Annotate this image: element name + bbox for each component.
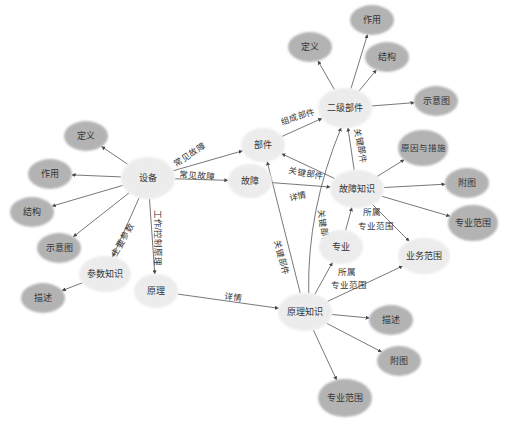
edge-label: 所属 [338,267,356,277]
edge-erji-jiegou_t [359,70,376,91]
edge-guzhangzs-erji [348,128,354,170]
node-label: 定义 [301,41,319,52]
node-label: 故障 [241,175,259,186]
node-shiyitu_t[interactable]: 示意图 [414,86,458,116]
node-label: 作用 [363,14,381,25]
node-label: 专业范围 [455,217,491,228]
node-zuoyong_t[interactable]: 作用 [350,5,394,35]
node-bujian[interactable]: 部件 [241,128,285,162]
edge-label: 详情 [288,190,308,203]
edge-yuanlizs-zhuanye_b [313,330,336,380]
node-label: 结构 [23,206,41,217]
edge-erji-zuoyong_t [351,35,368,89]
node-yuanli[interactable]: 原理 [134,274,178,308]
edge-canshu-miaoshu_l [62,283,82,291]
node-jiegou_t[interactable]: 结构 [365,42,409,72]
node-label: 作用 [41,168,59,179]
node-shiyitu_l[interactable]: 示意图 [37,233,81,263]
node-yuanyin[interactable]: 原因与措施 [398,130,448,166]
node-zhuanye[interactable]: 专业 [319,230,363,264]
edge-zhuanye-guzhangzs [346,208,352,231]
edge-guzhangzs-yuanyin [377,160,404,177]
node-label: 示意图 [46,242,73,253]
edge-erji-dingyi_t [318,61,334,90]
edge-label: 关键部件 [352,127,368,164]
edge-label: 工作/控制原理 [153,210,163,267]
node-canshu[interactable]: 参数知识 [79,256,131,292]
node-label: 附图 [390,355,408,366]
edge-guzhangzs-futu_r [384,184,445,187]
edge-label: 关键部件 [287,165,324,181]
edge-label: 常见故障 [172,141,208,169]
edge-shebei-zuoyong_l [72,175,121,177]
node-label: 原理知识 [287,306,323,317]
node-label: 设备 [139,172,157,183]
node-shebei[interactable]: 设备 [121,157,175,199]
node-dingyi_l[interactable]: 定义 [64,121,108,151]
node-label: 专业范围 [327,392,363,403]
edge-shebei-shiyitu_l [73,193,129,237]
nodes-layer: 设备定义作用结构示意图参数知识描述原理部件故障二级部件定义作用结构示意图原因与措… [10,5,498,417]
edge-label: 专业范围 [358,221,394,231]
node-zhuanye_b[interactable]: 专业范围 [318,379,372,417]
node-label: 参数知识 [87,268,123,279]
node-futu_b[interactable]: 附图 [377,346,421,376]
node-miaoshu_b[interactable]: 描述 [369,305,413,335]
edge-shebei-jiegou_l [52,185,123,206]
node-yewu[interactable]: 业务范围 [398,238,450,274]
node-label: 原理 [147,286,165,296]
edge-guzhangzs-zhuanye_r [382,196,450,216]
node-label: 结构 [378,51,396,62]
node-label: 定义 [77,130,95,141]
node-label: 描述 [34,292,52,303]
edge-yuanlizs-zhuanye [315,263,333,295]
node-yuanlizs[interactable]: 原理知识 [278,293,332,331]
node-label: 示意图 [423,95,450,106]
node-dingyi_t[interactable]: 定义 [288,32,332,62]
node-guzhangzs[interactable]: 故障知识 [330,170,384,208]
edge-label: 主要参数 [109,222,136,258]
edge-label: 详情 [223,291,242,303]
node-label: 部件 [254,139,272,150]
node-erji[interactable]: 二级部件 [318,88,372,128]
node-futu_r[interactable]: 附图 [445,168,489,198]
node-guzhang[interactable]: 故障 [228,164,272,198]
node-label: 附图 [458,177,476,188]
node-label: 业务范围 [406,250,442,261]
node-zuoyong_l[interactable]: 作用 [28,159,72,189]
node-miaoshu_l[interactable]: 描述 [21,283,65,313]
edge-erji-shiyitu_t [372,103,414,106]
node-label: 专业 [332,241,350,252]
node-zhuanye_r[interactable]: 专业范围 [448,205,498,241]
node-label: 原因与措施 [401,143,446,153]
node-label: 故障知识 [339,183,375,194]
edge-yuanlizs-miaoshu_b [332,314,369,317]
edge-label: 所属 [363,207,381,217]
node-label: 描述 [382,314,400,325]
edge-label: 专业范围 [331,280,367,290]
edge-label: 常见故障 [179,169,216,183]
node-label: 二级部件 [327,102,363,113]
node-jiegou_l[interactable]: 结构 [10,197,54,227]
knowledge-graph: 常见故障常见故障组成部件关键部件详情关键部件主要参数工作/控制原理关键部件关键部… [0,0,516,429]
edge-shebei-dingyi_l [102,147,128,165]
